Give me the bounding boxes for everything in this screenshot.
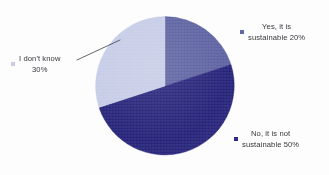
pie-chart-figure: Yes, it issustainable 20% No, it is nots…: [0, 0, 329, 175]
legend-item-dont-know[interactable]: I don't know30%: [11, 54, 61, 75]
legend-label-yes-line1: Yes, it is: [248, 22, 305, 33]
legend-swatch-dont-know: [11, 62, 15, 66]
legend-item-yes[interactable]: Yes, it issustainable 20%: [240, 22, 305, 43]
legend-swatch-no: [234, 137, 238, 141]
legend-text-yes: Yes, it issustainable 20%: [248, 22, 305, 43]
legend-swatch-yes: [240, 30, 244, 34]
legend-label-no-line2: sustainable 50%: [242, 140, 299, 151]
legend-label-dont-know-line1: I don't know: [19, 54, 61, 65]
leader-line-dont-know: [70, 33, 130, 67]
legend-label-yes-line2: sustainable 20%: [248, 33, 305, 44]
legend-text-dont-know: I don't know30%: [19, 54, 61, 75]
legend-label-no-line1: No, it is not: [242, 129, 299, 140]
legend-label-dont-know-line2: 30%: [19, 65, 61, 76]
legend-item-no[interactable]: No, it is notsustainable 50%: [234, 129, 299, 150]
legend-text-no: No, it is notsustainable 50%: [242, 129, 299, 150]
